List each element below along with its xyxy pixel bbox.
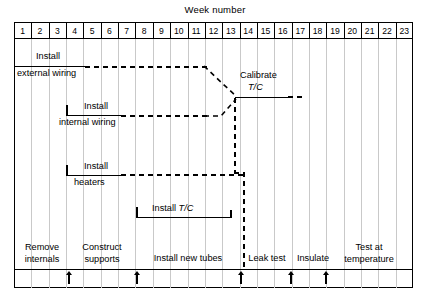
gridline-week-17 <box>292 22 293 288</box>
bar-internal-wiring-solid <box>66 115 121 116</box>
bar-install-tc-solid <box>136 217 231 218</box>
dependency-line-calibrate-down <box>234 98 236 173</box>
gantt-chart: Week number 1234567891011121314151617181… <box>0 0 430 299</box>
bar-external-wiring-solid <box>15 66 85 67</box>
bar-label-internal-wiring-line2: internal wiring <box>59 117 116 128</box>
week-number-2: 2 <box>31 24 48 38</box>
week-number-5: 5 <box>83 24 100 38</box>
bar-label-external-wiring-line2: external wiring <box>17 68 76 79</box>
milestone-arrow-week8 <box>133 271 140 284</box>
phase-leak-test: Leak test <box>244 253 290 265</box>
week-number-4: 4 <box>66 24 83 38</box>
week-number-9: 9 <box>153 24 170 38</box>
phase-remove-internals-line2: internals <box>16 254 68 266</box>
week-number-15: 15 <box>257 24 274 38</box>
gridline-week-18 <box>309 22 310 288</box>
bar-calibrate-solid <box>235 97 288 98</box>
milestone-axis <box>14 269 413 288</box>
week-number-16: 16 <box>274 24 291 38</box>
bar-calibrate-dashed <box>288 96 302 98</box>
week-number-10: 10 <box>170 24 187 38</box>
bar-install-tc-end-tick <box>230 210 232 218</box>
bar-internal-wiring-dashed <box>121 115 207 117</box>
chart-title: Week number <box>0 4 430 15</box>
milestone-arrow-week19 <box>322 271 329 284</box>
bar-label-install-tc: Install T/C <box>152 203 193 214</box>
gridline-week-10 <box>170 22 171 288</box>
week-number-14: 14 <box>240 24 257 38</box>
phase-install-new-tubes: Install new tubes <box>138 253 238 265</box>
phase-construct-supports: Construct supports <box>70 242 134 265</box>
phase-insulate: Insulate <box>290 253 336 265</box>
week-number-7: 7 <box>118 24 135 38</box>
bar-label-install-tc-italic: T/C <box>179 203 194 213</box>
week-number-8: 8 <box>135 24 152 38</box>
phase-construct-supports-line2: supports <box>70 254 134 266</box>
bar-label-install-tc-prefix: Install <box>152 203 176 213</box>
phase-test-at-temperature-line1: Test at <box>334 242 404 254</box>
gridline-week-11 <box>188 22 189 288</box>
bar-label-heaters-line1: Install <box>84 161 108 172</box>
phase-remove-internals-line1: Remove <box>16 242 68 254</box>
gridline-week-8 <box>135 22 136 288</box>
week-number-6: 6 <box>101 24 118 38</box>
phase-leak-test-line1: Leak test <box>244 253 290 265</box>
week-number-18: 18 <box>309 24 326 38</box>
week-number-19: 19 <box>326 24 343 38</box>
bar-label-internal-wiring-line1: Install <box>84 101 108 112</box>
week-number-20: 20 <box>344 24 361 38</box>
gridline-week-16 <box>274 22 275 288</box>
week-number-3: 3 <box>49 24 66 38</box>
bar-heaters-solid <box>66 175 121 176</box>
week-number-11: 11 <box>188 24 205 38</box>
week-number-23: 23 <box>396 24 413 38</box>
bar-heaters-dashed <box>121 174 244 176</box>
bar-external-wiring-dashed <box>85 66 207 68</box>
gridline-week-14 <box>240 22 241 288</box>
phase-insulate-line1: Insulate <box>290 253 336 265</box>
week-number-21: 21 <box>361 24 378 38</box>
week-number-12: 12 <box>205 24 222 38</box>
week-number-1: 1 <box>14 24 31 38</box>
milestone-arrow-week4 <box>65 271 72 284</box>
gridline-week-19 <box>326 22 327 288</box>
week-number-17: 17 <box>292 24 309 38</box>
milestone-arrow-week14 <box>237 271 244 284</box>
bar-label-heaters-line2: heaters <box>74 177 105 188</box>
phase-construct-supports-line1: Construct <box>70 242 134 254</box>
gridline-week-12 <box>205 22 206 288</box>
week-number-22: 22 <box>378 24 395 38</box>
gridline-week-13 <box>222 22 223 288</box>
phase-test-at-temperature-line2: temperature <box>334 254 404 266</box>
gridline-week-9 <box>153 22 154 288</box>
gridline-week-15 <box>257 22 258 288</box>
week-number-13: 13 <box>222 24 239 38</box>
phase-install-new-tubes-line1: Install new tubes <box>138 253 238 265</box>
milestone-arrow-week17 <box>287 271 294 284</box>
phase-test-at-temperature: Test at temperature <box>334 242 404 265</box>
bar-label-calibrate-line1: Calibrate <box>240 70 277 81</box>
bar-label-external-wiring-line1: Install <box>36 51 60 62</box>
phase-remove-internals: Remove internals <box>16 242 68 265</box>
converge-stroke-upper <box>203 64 239 100</box>
bar-label-calibrate-italic: T/C <box>248 82 263 93</box>
